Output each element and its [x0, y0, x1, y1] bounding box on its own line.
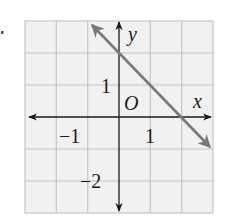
- y-tick-label-neg2: −2: [80, 170, 101, 192]
- origin-label: O: [124, 92, 138, 114]
- stray-dot: [1, 31, 4, 34]
- x-axis-label: x: [192, 90, 202, 112]
- y-axis-label: y: [126, 23, 137, 46]
- x-tick-label-neg1: −1: [59, 125, 80, 147]
- y-tick-label-1: 1: [101, 75, 111, 97]
- coordinate-plane-figure: y x O 1 −2 −1 1: [0, 0, 227, 224]
- x-tick-label-1: 1: [145, 125, 155, 147]
